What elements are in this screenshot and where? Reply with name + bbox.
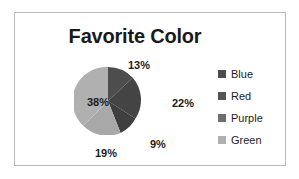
legend-item-blue[interactable]: Blue [218,63,284,85]
legend-label-purple: Purple [231,112,263,124]
legend-item-green[interactable]: Green [218,129,284,151]
chart-title: Favorite Color [15,25,255,48]
legend-swatch-green-icon [218,136,226,144]
legend-label-green: Green [231,134,262,146]
chart-frame: Favorite Color 13% 22% 9% 19% 38% Blue R… [14,12,286,166]
legend-swatch-blue-icon [218,70,226,78]
pie-label-purple: 9% [150,138,166,150]
pie-label-green-upper: 38% [87,96,109,108]
legend-label-red: Red [231,90,251,102]
legend-swatch-purple-icon [218,114,226,122]
pie-label-blue: 13% [128,59,150,71]
legend-item-purple[interactable]: Purple [218,107,284,129]
legend-swatch-red-icon [218,92,226,100]
pie-label-green-lower: 19% [95,147,117,159]
legend-item-red[interactable]: Red [218,85,284,107]
pie-label-red: 22% [172,97,194,109]
chart-legend: Blue Red Purple Green [218,63,284,151]
legend-label-blue: Blue [231,68,253,80]
